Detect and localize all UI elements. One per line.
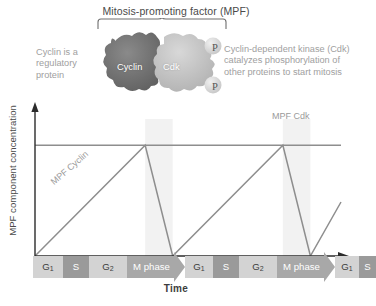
phase-label: S [364, 262, 370, 272]
m-phase-band-1 [145, 119, 173, 256]
x-axis-label: Time [0, 283, 352, 294]
phase-label: M phase [127, 256, 185, 278]
phase-m-phase-7: M phase [277, 256, 335, 278]
phase-g1-8: G1 [335, 256, 359, 278]
phase-g2-2: G2 [89, 256, 127, 278]
phase-g2-6: G2 [239, 256, 277, 278]
phase-label: M phase [277, 256, 335, 278]
phase-g1-4: G1 [185, 256, 213, 278]
phase-s-9: S [359, 256, 376, 278]
phase-s-5: S [213, 256, 239, 278]
phase-label: S [73, 262, 79, 272]
y-axis-label: MPF component concentration [7, 81, 18, 261]
phosphate-label-top: P [212, 42, 218, 53]
phase-m-phase-3: M phase [127, 256, 185, 278]
figure-title: Mitosis-promoting factor (MPF) [0, 5, 352, 17]
phase-label: G1 [193, 262, 204, 272]
phase-label: G2 [252, 262, 263, 272]
mpf-protein-complex [92, 28, 234, 108]
phase-s-1: S [63, 256, 89, 278]
phase-label: S [223, 262, 229, 272]
cdk-caption: Cyclin-dependent kinase (Cdk) catalyzes … [224, 44, 350, 78]
phase-g1-0: G1 [33, 256, 63, 278]
phase-label: G1 [341, 262, 352, 272]
phase-label: G1 [42, 262, 53, 272]
m-phase-band-2 [283, 119, 311, 256]
phase-label: G2 [102, 262, 113, 272]
y-axis-arrow [31, 102, 38, 112]
phosphate-label-bottom: P [212, 81, 218, 92]
mpf-cdk-series-label: MPF Cdk [272, 111, 310, 121]
